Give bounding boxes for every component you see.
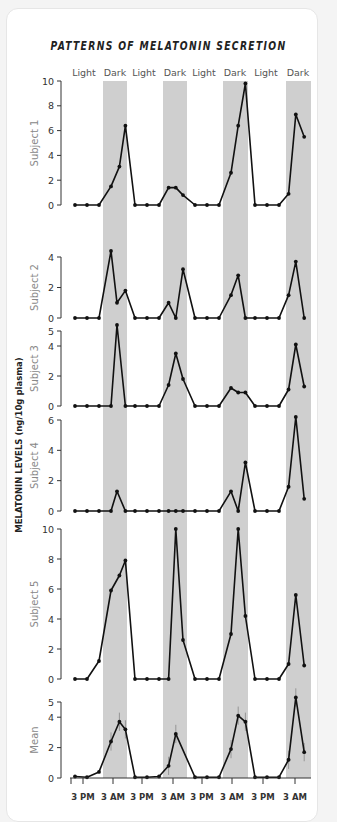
melatonin-chart: LightDarkLightDarkLightDarkLightDarkMELA… <box>0 0 337 822</box>
y-tick-label: 2 <box>48 371 54 382</box>
y-tick-label: 5 <box>48 697 54 708</box>
x-tick-label: 3 AM <box>161 792 185 802</box>
data-point <box>73 316 77 320</box>
data-point <box>124 404 128 408</box>
data-point <box>97 770 101 774</box>
data-point <box>109 589 113 593</box>
data-point <box>85 203 89 207</box>
data-point <box>302 664 306 668</box>
data-point <box>287 662 291 666</box>
data-point <box>133 509 137 513</box>
data-point <box>174 352 178 356</box>
data-point <box>124 727 128 731</box>
data-point <box>97 404 101 408</box>
data-point <box>174 316 178 320</box>
y-tick-label: 8 <box>48 554 54 565</box>
data-point <box>73 203 77 207</box>
data-point <box>157 677 161 681</box>
y-tick-label: 2 <box>48 475 54 486</box>
data-point <box>302 750 306 754</box>
data-point <box>229 386 233 390</box>
data-point <box>193 404 197 408</box>
data-point <box>229 171 233 175</box>
data-point <box>205 775 209 779</box>
panel-label: Subject 1 <box>29 120 40 167</box>
data-point <box>181 267 185 271</box>
data-point <box>217 203 221 207</box>
data-point <box>145 775 149 779</box>
data-point <box>167 764 171 768</box>
data-point <box>193 203 197 207</box>
phase-label: Light <box>132 67 156 78</box>
data-point <box>294 415 298 419</box>
data-point <box>157 404 161 408</box>
data-point <box>97 659 101 663</box>
data-point <box>277 677 281 681</box>
data-point <box>294 696 298 700</box>
data-point <box>118 165 122 169</box>
data-point <box>181 638 185 642</box>
data-point <box>115 489 119 493</box>
panel-label: Subject 3 <box>29 345 40 392</box>
data-point <box>73 677 77 681</box>
data-point <box>236 714 240 718</box>
data-point <box>302 135 306 139</box>
data-point <box>217 775 221 779</box>
y-tick-label: 4 <box>48 445 54 456</box>
data-point <box>174 186 178 190</box>
x-tick-label: 3 AM <box>220 792 244 802</box>
data-point <box>236 509 240 513</box>
data-point <box>181 509 185 513</box>
data-point <box>109 404 113 408</box>
data-point <box>244 614 248 618</box>
x-tick-label: 3 AM <box>283 792 307 802</box>
dark-period-band <box>103 81 127 778</box>
y-tick-label: 6 <box>48 125 54 136</box>
panel-label: Subject 4 <box>29 442 40 489</box>
data-point <box>174 527 178 531</box>
data-point <box>124 509 128 513</box>
data-point <box>133 316 137 320</box>
data-point <box>109 249 113 253</box>
data-point <box>236 391 240 395</box>
data-point <box>244 82 248 86</box>
data-point <box>265 509 269 513</box>
data-point <box>253 404 257 408</box>
data-point <box>145 677 149 681</box>
y-tick-label: 6 <box>48 415 54 426</box>
y-tick-label: 0 <box>48 200 54 211</box>
phase-label: Dark <box>104 67 127 78</box>
phase-label: Dark <box>287 67 310 78</box>
data-point <box>133 404 137 408</box>
x-tick-label: 3 PM <box>130 792 154 802</box>
data-point <box>265 775 269 779</box>
data-point <box>229 293 233 297</box>
phase-label: Light <box>72 67 96 78</box>
data-point <box>302 316 306 320</box>
data-point <box>302 497 306 501</box>
data-point <box>181 377 185 381</box>
x-tick-label: 3 PM <box>71 792 95 802</box>
data-point <box>181 193 185 197</box>
data-point <box>109 509 113 513</box>
data-point <box>85 775 89 779</box>
y-tick-label: 0 <box>48 313 54 324</box>
y-tick-label: 10 <box>42 524 54 535</box>
data-point <box>277 775 281 779</box>
data-point <box>167 383 171 387</box>
data-point <box>167 509 171 513</box>
phase-label: Dark <box>224 67 247 78</box>
data-point <box>85 509 89 513</box>
data-point <box>217 316 221 320</box>
data-point <box>217 509 221 513</box>
data-point <box>277 404 281 408</box>
data-point <box>167 186 171 190</box>
data-point <box>133 775 137 779</box>
data-point <box>294 113 298 117</box>
data-point <box>244 461 248 465</box>
data-point <box>217 677 221 681</box>
data-point <box>236 273 240 277</box>
data-point <box>294 593 298 597</box>
data-point <box>205 509 209 513</box>
data-point <box>217 404 221 408</box>
